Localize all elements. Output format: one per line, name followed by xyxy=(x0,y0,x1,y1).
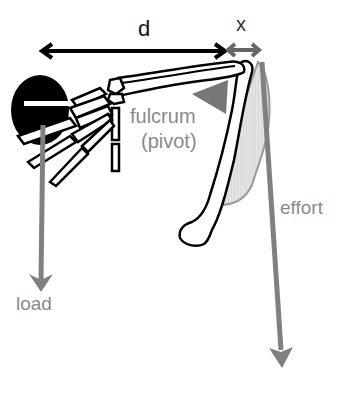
distance-d-arrow xyxy=(42,44,225,58)
distance-d-label: d xyxy=(138,18,150,40)
effort-label: effort xyxy=(280,198,323,217)
load-label: load xyxy=(16,294,52,313)
fulcrum-label: fulcrum xyxy=(130,106,196,126)
lever-arm-diagram: d x fulcrum (pivot) effort load xyxy=(0,0,355,400)
distance-x-arrow xyxy=(228,44,259,56)
fulcrum-triangle-icon xyxy=(192,80,228,114)
pivot-label: (pivot) xyxy=(141,131,197,151)
distance-x-label: x xyxy=(236,14,246,34)
